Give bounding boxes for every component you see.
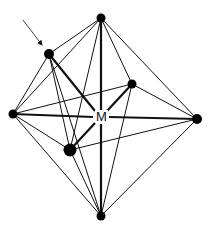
- bond-m-left: [13, 114, 93, 117]
- edge-back-bottom: [101, 84, 132, 216]
- bond-m-right: [109, 117, 197, 119]
- center-atom-label: M: [95, 110, 108, 123]
- bond-m-back: [107, 84, 132, 111]
- vertex-right: [192, 114, 202, 124]
- edge-top-front: [70, 18, 101, 150]
- vertex-front: [64, 144, 77, 157]
- edge-back-right: [132, 84, 197, 119]
- edge-top-a: [49, 18, 101, 54]
- vertex-back: [128, 80, 137, 89]
- edge-top-right: [101, 18, 197, 119]
- bond-m-a: [49, 54, 95, 111]
- edge-top-left: [13, 18, 101, 114]
- vertex-bottom: [97, 212, 106, 221]
- edge-front-bottom: [70, 150, 101, 216]
- edge-right-bottom: [101, 119, 197, 216]
- vertex-top: [97, 14, 106, 23]
- edge-front-right: [70, 119, 197, 150]
- vertex-a: [44, 49, 54, 59]
- edge-top-back: [101, 18, 132, 84]
- edge-a-bottom: [49, 54, 101, 216]
- vertex-left: [9, 110, 18, 119]
- edge-left-front: [13, 114, 70, 150]
- edge-left-back: [13, 84, 132, 114]
- arrow-pointer: [23, 20, 42, 45]
- edge-a-left: [13, 54, 49, 114]
